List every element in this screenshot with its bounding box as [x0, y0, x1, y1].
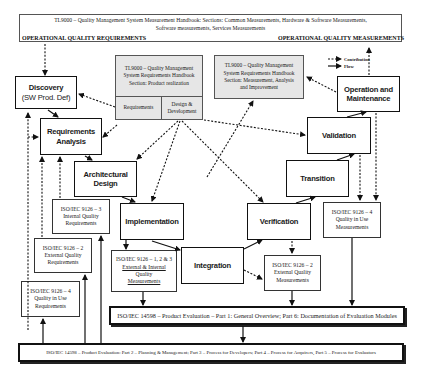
contrib-tl-to-discovery	[79, 94, 115, 107]
flow-validation-to-operation	[347, 112, 366, 117]
flow-reqanalysis-to-archdesign	[85, 156, 92, 160]
contrib-design-to-verification	[182, 121, 263, 202]
flow-transition-to-validation	[337, 154, 354, 160]
contrib-operation-to-measurement-handbook	[307, 77, 336, 92]
contrib-design-to-validation	[204, 120, 305, 135]
flow-integration-to-verification	[244, 240, 262, 249]
flow-implementation-to-integration	[152, 241, 180, 250]
diagram-canvas: TL9000 – Quality Management System Measu…	[0, 0, 421, 379]
contrib-design-to-implementation	[152, 121, 180, 201]
flow-archdesign-to-implementation	[122, 197, 135, 202]
contrib-to-measurement-handbook	[207, 101, 253, 177]
connector-layer	[0, 0, 421, 379]
flow-discovery-to-reqanalysis	[48, 110, 58, 117]
contrib-design-to-archdesign	[137, 121, 178, 159]
contrib-integration-to-eqm	[244, 270, 262, 279]
contrib-req-cell-to-reqanalysis	[103, 125, 117, 137]
flow-verification-to-transition	[296, 197, 315, 203]
